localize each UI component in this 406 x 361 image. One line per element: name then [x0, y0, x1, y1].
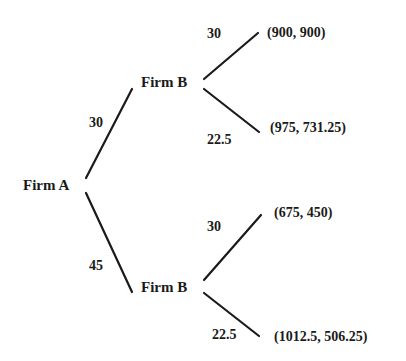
payoff-2: (975, 731.25): [270, 121, 346, 135]
edge-label-upper-up: 30: [207, 27, 221, 41]
edge-label-lower-down: 22.5: [212, 328, 237, 342]
node-firm-b-lower: Firm B: [141, 280, 187, 295]
node-firm-b-upper: Firm B: [141, 75, 187, 90]
edge-label-upper-down: 22.5: [207, 133, 232, 147]
payoff-3: (675, 450): [274, 206, 332, 220]
edge-label-a-lower: 45: [89, 259, 103, 273]
edge-a-to-lower-b: [86, 193, 132, 292]
payoff-4: (1012.5, 506.25): [274, 330, 367, 344]
edge-label-lower-up: 30: [207, 220, 221, 234]
node-firm-a: Firm A: [23, 178, 69, 193]
edge-upper-b-down: [204, 89, 259, 132]
game-tree-diagram: Firm A Firm B Firm B 30 45 30 22.5 30 22…: [0, 0, 406, 361]
edge-label-a-upper: 30: [89, 116, 103, 130]
payoff-1: (900, 900): [267, 26, 325, 40]
edge-a-to-upper-b: [86, 89, 132, 178]
